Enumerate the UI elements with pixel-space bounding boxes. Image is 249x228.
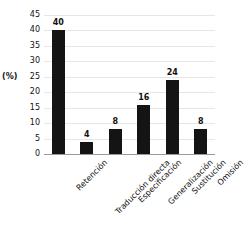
- bar: [194, 129, 207, 154]
- bar-value-label: 8: [101, 118, 129, 126]
- x-tick-label: Retención: [75, 158, 110, 193]
- bar: [80, 142, 93, 154]
- gridline: [44, 30, 215, 31]
- plot-area: [44, 15, 215, 154]
- bar: [52, 30, 65, 154]
- y-tick-label: 15: [22, 104, 40, 112]
- bar-value-label: 8: [187, 118, 215, 126]
- y-tick-label: 35: [22, 42, 40, 50]
- y-tick-label: 10: [22, 119, 40, 127]
- gridline: [44, 108, 215, 109]
- gridline: [44, 139, 215, 140]
- axis-baseline: [44, 154, 215, 155]
- bar-value-label: 40: [44, 19, 72, 27]
- bar-value-label: 16: [130, 94, 158, 102]
- gridline: [44, 77, 215, 78]
- y-tick-label: 45: [22, 11, 40, 19]
- bar-value-label: 24: [158, 69, 186, 77]
- y-axis-title: (%): [2, 73, 17, 81]
- bar: [166, 80, 179, 154]
- y-tick-label: 40: [22, 26, 40, 34]
- y-tick-label: 20: [22, 88, 40, 96]
- y-tick-label: 25: [22, 73, 40, 81]
- gridline: [44, 61, 215, 62]
- y-tick-label: 5: [22, 135, 40, 143]
- bar: [109, 129, 122, 154]
- gridline: [44, 46, 215, 47]
- bar: [137, 105, 150, 154]
- bar-value-label: 4: [73, 131, 101, 139]
- y-tick-label: 0: [22, 150, 40, 158]
- x-tick-label: Traducción directa: [113, 158, 171, 216]
- gridline: [44, 15, 215, 16]
- bar-chart: (%) 051015202530354045 404816248 Retenci…: [0, 0, 249, 228]
- y-tick-label: 30: [22, 57, 40, 65]
